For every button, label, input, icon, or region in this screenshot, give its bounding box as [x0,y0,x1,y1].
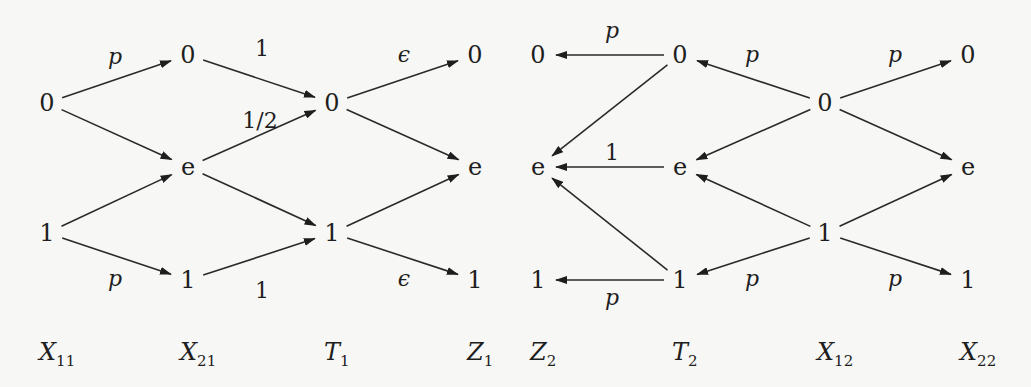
column-labels-layer: X11X21T1Z1Z2T2X12X22 [37,338,996,370]
edge-label: p [605,285,619,310]
node-t2-e: e [673,153,687,181]
arrow-t1_0-to-z1_e [347,110,459,160]
arrow-x12_1-to-t2_e [696,174,810,226]
node-z2-e: e [531,153,545,181]
arrow-x12_1-to-x22_e [840,175,952,227]
node-x22-e: e [961,153,975,181]
node-z1-e: e [468,153,482,181]
edge-label: p [605,18,619,43]
edge-label: p [888,42,902,67]
node-z2-1: 1 [530,266,545,294]
node-t2-0: 0 [672,41,687,69]
edge-label: 1 [605,140,619,165]
node-t2-1: 1 [672,266,687,294]
column-label-x11: X11 [37,338,75,370]
node-z2-0: 0 [530,41,545,69]
edge-label: ϵ [398,42,410,67]
column-label-x12: X12 [815,338,853,370]
edge-labels-layer: pp11/21ϵϵp1ppppp [108,18,902,310]
node-x21-0: 0 [180,41,195,69]
node-x12-0: 0 [817,89,832,117]
arrow-x11_1-to-x21_e [61,175,171,227]
node-x11-0: 0 [39,89,54,117]
node-z1-0: 0 [467,41,482,69]
arrow-x21_0-to-t1_0 [203,60,315,97]
column-label-t1: T1 [324,338,350,370]
node-t1-1: 1 [324,219,339,247]
column-label-x22: X22 [958,338,996,370]
edge-label: p [108,44,122,69]
edge-label: p [888,266,902,291]
edge-label: p [745,42,759,67]
nodes-layer: 010e1010e10e10e1010e1 [39,41,975,294]
edge-label: 1 [255,278,269,303]
node-x11-1: 1 [39,219,54,247]
column-label-z2: Z2 [529,338,556,370]
edge-label: 1/2 [242,108,277,133]
node-x21-1: 1 [180,266,195,294]
edge-label: 1 [255,36,269,61]
node-z1-1: 1 [467,266,482,294]
node-x22-0: 0 [960,41,975,69]
node-x22-1: 1 [960,266,975,294]
edge-label: ϵ [398,266,410,291]
arrow-x11_0-to-x21_e [62,110,172,160]
transition-diagram: pp11/21ϵϵp1ppppp 010e1010e10e10e1010e1 X… [0,0,1031,387]
arrow-t2_1-to-z2_e [552,178,667,270]
arrow-x21_1-to-t1_1 [203,239,315,275]
arrow-t1_1-to-z1_e [347,175,459,227]
edge-label: p [745,266,759,291]
node-x12-1: 1 [817,219,832,247]
column-label-t2: T2 [672,338,698,370]
arrow-x12_0-to-x22_e [840,110,952,160]
arrow-x12_0-to-t2_e [696,109,810,159]
edge-label: p [108,266,122,291]
node-x21-e: e [181,153,195,181]
node-t1-0: 0 [324,89,339,117]
arrow-x21_e-to-t1_1 [203,174,316,226]
column-label-x21: X21 [178,338,216,370]
column-label-z1: Z1 [466,338,493,370]
